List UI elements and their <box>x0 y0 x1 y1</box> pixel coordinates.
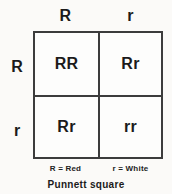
row-header-allele-1: R <box>4 58 30 76</box>
punnett-grid: RR Rr Rr rr <box>33 31 163 159</box>
legend-entry-dominant: R = Red <box>33 163 98 174</box>
punnett-cell-bottom-right: rr <box>98 95 161 157</box>
column-header-allele-2: r <box>98 6 163 26</box>
column-header-allele-1: R <box>33 6 98 26</box>
legend-entry-recessive: r = White <box>98 163 163 174</box>
punnett-cell-top-right: Rr <box>98 33 161 95</box>
punnett-cell-bottom-left: Rr <box>35 95 98 157</box>
diagram-caption: Punnett square <box>0 179 172 190</box>
row-header-allele-2: r <box>4 122 30 140</box>
punnett-square-diagram: R r R r RR Rr Rr rr R = Red r = White Pu… <box>0 0 172 194</box>
punnett-cell-top-left: RR <box>35 33 98 95</box>
